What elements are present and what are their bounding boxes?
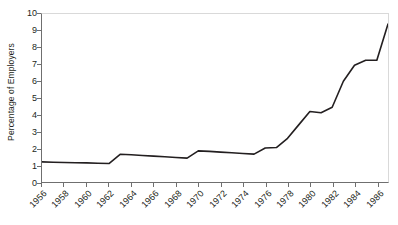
x-tick-label: 1976 xyxy=(246,188,273,215)
x-tick-label: 1968 xyxy=(156,188,183,215)
y-axis-title: Percentage of Employers xyxy=(2,0,20,183)
x-tick-label: 1966 xyxy=(134,188,161,215)
x-tick-label: 1972 xyxy=(201,188,228,215)
x-tick-label: 1960 xyxy=(67,188,94,215)
x-tick-label: 1982 xyxy=(314,188,341,215)
x-axis-tick-labels: 1956195819601962196419661968197019721974… xyxy=(41,187,390,225)
data-series-line xyxy=(42,24,388,163)
x-tick-label: 1964 xyxy=(112,188,139,215)
line-chart: Percentage of Employers 012345678910 195… xyxy=(0,0,398,225)
x-tick-label: 1962 xyxy=(89,188,116,215)
y-axis-title-text: Percentage of Employers xyxy=(6,43,16,141)
x-tick-label: 1958 xyxy=(44,188,71,215)
x-tick-label: 1970 xyxy=(179,188,206,215)
x-tick-label: 1978 xyxy=(269,188,296,215)
plot-area xyxy=(41,13,389,183)
x-tick-label: 1974 xyxy=(224,188,251,215)
plot-svg xyxy=(42,14,388,182)
y-tick-label: 10 xyxy=(27,8,37,18)
x-tick-label: 1980 xyxy=(291,188,318,215)
x-tick-label: 1984 xyxy=(336,188,363,215)
x-tick-label: 1986 xyxy=(359,188,386,215)
x-tick-label: 1956 xyxy=(22,188,49,215)
